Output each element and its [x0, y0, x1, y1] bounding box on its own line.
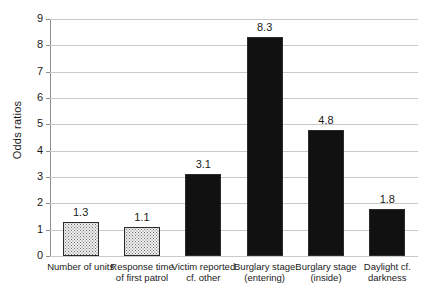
x-axis-label: Response time of first patrol — [108, 261, 176, 283]
y-tick-label-6: 6 — [30, 92, 43, 103]
x-axis-label: Daylight cf. darkness — [353, 261, 421, 283]
y-tick-label-7: 7 — [30, 66, 43, 77]
bar-value-label: 1.1 — [112, 212, 172, 223]
plot-area: 1.31.13.18.34.81.8 — [50, 19, 418, 256]
odds-ratios-bar-chart: Odds ratios 0123456789 1.31.13.18.34.81.… — [0, 0, 434, 300]
bar-value-label: 1.8 — [357, 194, 417, 205]
y-tick-label-4: 4 — [30, 145, 43, 156]
x-axis-label: Number of units — [47, 261, 115, 272]
bar-value-label: 8.3 — [235, 22, 295, 33]
bar — [308, 130, 344, 256]
gridline-7 — [50, 72, 418, 73]
gridline-9 — [50, 19, 418, 20]
bar — [369, 209, 405, 256]
bar — [185, 174, 221, 256]
gridline-6 — [50, 98, 418, 99]
bar-value-label: 1.3 — [51, 207, 111, 218]
y-tick-label-1: 1 — [30, 224, 43, 235]
gridline-4 — [50, 151, 418, 152]
bar — [247, 37, 283, 256]
x-axis-label: Burglary stage (inside) — [292, 261, 360, 283]
gridline-8 — [50, 45, 418, 46]
y-tick-label-9: 9 — [30, 13, 43, 24]
y-tick-label-2: 2 — [30, 197, 43, 208]
y-axis-title: Odds ratios — [11, 80, 23, 180]
x-axis-label: Burglary stage (entering) — [231, 261, 299, 283]
y-tick-label-8: 8 — [30, 39, 43, 50]
gridline-3 — [50, 177, 418, 178]
y-tick-label-3: 3 — [30, 171, 43, 182]
bar — [63, 222, 99, 256]
y-tick-label-5: 5 — [30, 118, 43, 129]
bar-value-label: 4.8 — [296, 115, 356, 126]
gridline-5 — [50, 124, 418, 125]
y-tick-label-0: 0 — [30, 250, 43, 261]
x-axis-label: Victim reported cf. other — [169, 261, 237, 283]
gridline-0 — [50, 256, 418, 257]
bar-value-label: 3.1 — [173, 159, 233, 170]
gridline-1 — [50, 230, 418, 231]
bar — [124, 227, 160, 256]
